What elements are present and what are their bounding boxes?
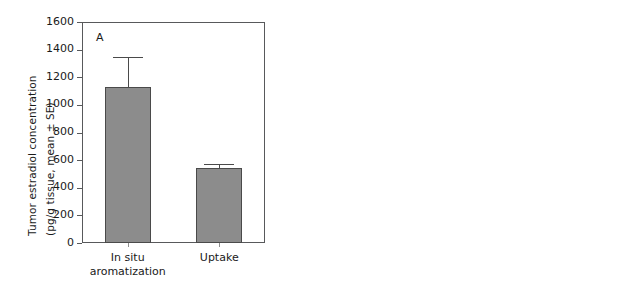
y-axis-tick [77, 50, 82, 51]
y-axis-tick-label: 200 [30, 208, 74, 221]
bar [196, 168, 242, 243]
panel-b: Tumor weight (mg, mean ± SE) B 010020030… [310, 0, 619, 296]
y-axis-tick [77, 160, 82, 161]
y-axis-tick-label: 600 [30, 153, 74, 166]
y-axis-tick [77, 243, 82, 244]
x-axis-tick [219, 243, 220, 247]
y-axis-tick [77, 215, 82, 216]
bar [105, 87, 151, 243]
y-axis-tick-label: 800 [30, 125, 74, 138]
panel-a: Tumor estradiol concentration (pg/g tiss… [0, 0, 310, 296]
y-axis-tick [77, 105, 82, 106]
y-axis-tick [77, 188, 82, 189]
y-axis-tick [77, 77, 82, 78]
x-axis-tick [128, 243, 129, 247]
error-bar-cap [113, 57, 143, 58]
figure-root: Tumor estradiol concentration (pg/g tiss… [0, 0, 619, 296]
panel-a-letter: A [96, 31, 104, 44]
x-axis-category-label-line: aromatization [68, 265, 188, 279]
y-axis-tick-label: 1200 [30, 70, 74, 83]
y-axis-tick-label: 1400 [30, 42, 74, 55]
y-axis-tick-label: 400 [30, 180, 74, 193]
error-bar-stem [128, 57, 129, 87]
x-axis-category-label-line: Uptake [159, 251, 279, 265]
x-axis-category-label: Uptake [159, 251, 279, 265]
y-axis-tick-label: 0 [30, 236, 74, 249]
y-axis-tick-label: 1000 [30, 97, 74, 110]
error-bar-cap [204, 164, 234, 165]
y-axis-tick [77, 22, 82, 23]
y-axis-tick [77, 133, 82, 134]
y-axis-tick-label: 1600 [30, 15, 74, 28]
